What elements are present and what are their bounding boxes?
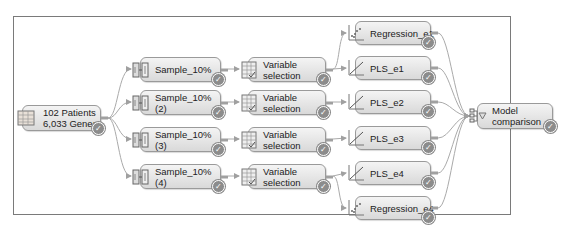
completed-check-icon: ✓ bbox=[317, 180, 330, 193]
node-variable-selection-4[interactable]: Variable selection ✓ bbox=[248, 164, 326, 189]
node-sample-1[interactable]: Sample_10% ✓ bbox=[140, 57, 221, 82]
node-model-comparison[interactable]: Model comparison ✓ bbox=[477, 103, 553, 129]
node-variable-selection-3[interactable]: Variable selection ✓ bbox=[248, 127, 326, 152]
completed-check-icon: ✓ bbox=[422, 71, 435, 84]
output-port[interactable] bbox=[431, 137, 438, 140]
output-port[interactable] bbox=[221, 175, 228, 178]
pls-icon bbox=[347, 59, 365, 77]
output-port[interactable] bbox=[431, 172, 438, 175]
completed-check-icon: ✓ bbox=[212, 73, 225, 86]
pls-icon bbox=[347, 129, 365, 147]
variable-selection-icon bbox=[240, 94, 258, 112]
output-port[interactable] bbox=[221, 101, 228, 104]
completed-check-icon: ✓ bbox=[544, 120, 557, 133]
completed-check-icon: ✓ bbox=[422, 211, 435, 224]
node-label: Regression_e4 bbox=[356, 203, 434, 214]
output-port[interactable] bbox=[326, 175, 333, 178]
completed-check-icon: ✓ bbox=[92, 122, 105, 135]
node-sample-4[interactable]: Sample_10% (4) ✓ bbox=[140, 164, 221, 189]
node-label: Sample_10% (3) bbox=[141, 129, 212, 151]
variable-selection-icon bbox=[240, 61, 258, 79]
output-port[interactable] bbox=[431, 67, 438, 70]
node-label: Regression_e1 bbox=[356, 28, 434, 39]
variable-selection-icon bbox=[240, 131, 258, 149]
node-variable-selection-1[interactable]: Variable selection ✓ bbox=[248, 57, 326, 82]
completed-check-icon: ✓ bbox=[317, 106, 330, 119]
node-regression-e4[interactable]: Regression_e4 ✓ bbox=[355, 196, 431, 220]
model-comparison-icon bbox=[469, 107, 487, 125]
output-port[interactable] bbox=[101, 117, 108, 120]
variable-selection-icon bbox=[240, 168, 258, 186]
node-sample-2[interactable]: Sample_10% (2) ✓ bbox=[140, 90, 221, 115]
output-port[interactable] bbox=[221, 138, 228, 141]
node-regression-e1[interactable]: Regression_e1 ✓ bbox=[355, 21, 431, 45]
pls-icon bbox=[347, 164, 365, 182]
regression-icon bbox=[347, 199, 365, 217]
sample-icon bbox=[132, 61, 150, 79]
output-port[interactable] bbox=[431, 32, 438, 35]
completed-check-icon: ✓ bbox=[212, 180, 225, 193]
completed-check-icon: ✓ bbox=[422, 36, 435, 49]
completed-check-icon: ✓ bbox=[317, 143, 330, 156]
node-label: Model comparison bbox=[478, 105, 541, 127]
node-variable-selection-2[interactable]: Variable selection ✓ bbox=[248, 90, 326, 115]
output-port[interactable] bbox=[326, 68, 333, 71]
node-pls-e4[interactable]: PLS_e4 ✓ bbox=[355, 161, 431, 185]
node-label: Sample_10% (2) bbox=[141, 92, 212, 114]
node-pls-e3[interactable]: PLS_e3 ✓ bbox=[355, 126, 431, 150]
completed-check-icon: ✓ bbox=[212, 143, 225, 156]
output-port[interactable] bbox=[431, 101, 438, 104]
node-pls-e1[interactable]: PLS_e1 ✓ bbox=[355, 56, 431, 80]
pls-icon bbox=[347, 93, 365, 111]
node-sample-3[interactable]: Sample_10% (3) ✓ bbox=[140, 127, 221, 152]
output-port[interactable] bbox=[326, 138, 333, 141]
regression-icon bbox=[347, 24, 365, 42]
completed-check-icon: ✓ bbox=[422, 105, 435, 118]
output-port[interactable] bbox=[431, 207, 438, 210]
output-port[interactable] bbox=[221, 68, 228, 71]
sample-icon bbox=[132, 168, 150, 186]
node-source-data[interactable]: 102 Patients 6,033 Genes ✓ bbox=[22, 105, 101, 131]
node-label: Sample_10% (4) bbox=[141, 166, 212, 188]
output-port[interactable] bbox=[326, 101, 333, 104]
sample-icon bbox=[132, 94, 150, 112]
completed-check-icon: ✓ bbox=[422, 176, 435, 189]
sample-icon bbox=[132, 131, 150, 149]
node-pls-e2[interactable]: PLS_e2 ✓ bbox=[355, 90, 431, 114]
completed-check-icon: ✓ bbox=[317, 73, 330, 86]
node-label: Sample_10% bbox=[141, 64, 212, 75]
completed-check-icon: ✓ bbox=[422, 141, 435, 154]
completed-check-icon: ✓ bbox=[212, 106, 225, 119]
data-table-icon bbox=[17, 109, 35, 127]
